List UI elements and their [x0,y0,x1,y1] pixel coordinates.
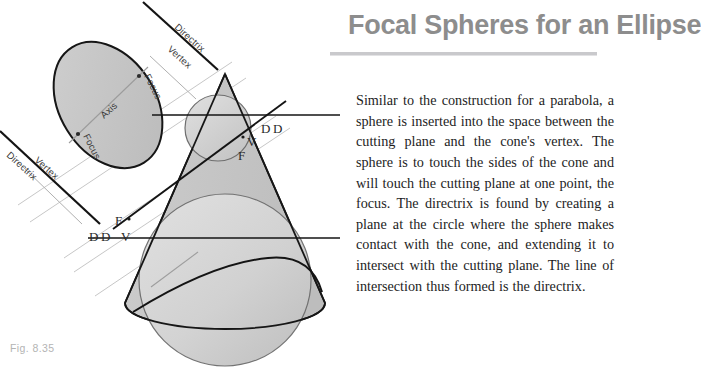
label-cone-d-upper-left: D [261,121,270,136]
label-vertex-top: Vertex [166,43,194,70]
label-cone-d-upper-right: D [273,121,282,136]
figure-diagram: Directrix Vertex Focus Axis Focus Vertex… [0,0,340,369]
title-divider [330,52,597,56]
label-cone-d-lower-right: D [101,229,110,244]
text-column: Focal Spheres for an Ellipse Similar to … [330,0,597,369]
body-paragraph: Similar to the construction for a parabo… [356,90,614,296]
label-cone-v-upper: V [247,134,257,149]
label-directrix-bottom: Directrix [5,149,40,182]
label-cone-f-lower: F [115,213,122,228]
label-vertex-bottom: Vertex [33,154,61,181]
label-cone-v-lower: V [121,229,131,244]
page-title: Focal Spheres for an Ellipse [348,8,701,42]
focus-point-upper [137,74,141,78]
lower-focus-point [127,217,130,220]
figure-caption: Fig. 8.35 [10,342,54,354]
upper-focus-point [241,135,244,138]
label-cone-d-lower-left: D [89,229,98,244]
label-cone-f-upper: F [238,148,245,163]
focus-point-lower [76,132,80,136]
lower-focal-sphere [139,194,311,366]
